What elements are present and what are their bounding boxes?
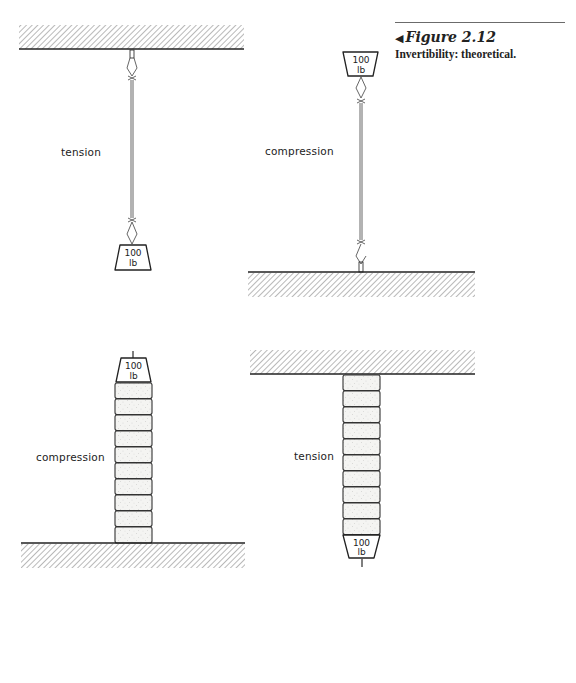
svg-text:lb: lb	[357, 65, 366, 75]
block	[343, 455, 380, 471]
label-compression-top-right: compression	[265, 145, 334, 157]
figure-caption: ◀Figure 2.12 Invertibility: theoretical.	[395, 29, 575, 61]
svg-text:lb: lb	[357, 547, 366, 557]
left-arrow-icon: ◀	[395, 32, 403, 45]
block	[343, 391, 380, 407]
ceiling-hatch	[250, 350, 475, 374]
block	[115, 463, 152, 479]
weight-100lb: 100 lb	[116, 358, 151, 382]
weight-100lb: 100 lb	[343, 535, 380, 558]
block	[115, 527, 152, 543]
block	[343, 407, 380, 423]
block	[343, 439, 380, 455]
caption-rule	[395, 22, 565, 23]
ceiling-hatch	[19, 25, 244, 49]
figure-diagram: 100 lb 100 lb 100 lb	[0, 0, 576, 683]
block	[115, 479, 152, 495]
block	[115, 383, 152, 399]
ground-hatch	[21, 544, 245, 568]
weight-100lb: 100 lb	[115, 245, 151, 270]
weight-100lb: 100 lb	[343, 52, 378, 76]
block	[343, 487, 380, 503]
block	[115, 399, 152, 415]
panel-bottom-right: 100 lb	[250, 350, 475, 567]
block	[343, 503, 380, 519]
figure-number: Figure 2.12	[405, 29, 495, 45]
svg-text:lb: lb	[129, 258, 138, 268]
block	[343, 519, 380, 535]
block	[115, 431, 152, 447]
string	[356, 77, 366, 272]
svg-text:100: 100	[124, 248, 141, 258]
caption-text: Invertibility: theoretical.	[395, 47, 575, 61]
figure-label: ◀Figure 2.12	[395, 29, 575, 47]
svg-text:100: 100	[125, 361, 142, 371]
block	[115, 447, 152, 463]
ground-hatch	[248, 273, 475, 297]
block	[343, 423, 380, 439]
label-compression-bottom-left: compression	[36, 451, 105, 463]
block-stack	[115, 383, 152, 543]
block	[343, 375, 380, 391]
panel-top-right: 100 lb	[248, 52, 475, 297]
label-tension-top-left: tension	[61, 146, 101, 158]
svg-text:lb: lb	[129, 371, 138, 381]
string	[127, 50, 137, 244]
block	[115, 415, 152, 431]
block	[115, 511, 152, 527]
panel-top-left: 100 lb	[19, 25, 244, 270]
block	[115, 495, 152, 511]
svg-text:100: 100	[352, 55, 369, 65]
label-tension-bottom-right: tension	[294, 450, 334, 462]
block-stack	[343, 375, 380, 535]
block	[343, 471, 380, 487]
